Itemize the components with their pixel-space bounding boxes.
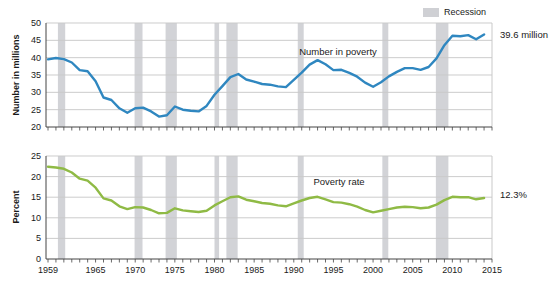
top-y-axis-title: Number in millions [11,34,21,115]
y-tick-label: 50 [9,18,41,28]
y-tick-label: 0 [9,254,41,264]
y-tick-label: 20 [9,122,41,132]
recession-legend-label: Recession [444,7,486,17]
number-end-annotation: 39.6 million [500,29,548,40]
y-tick-label: 20 [9,172,41,182]
x-tick-label: 1959 [30,265,66,275]
recession-legend: Recession [423,7,486,17]
poverty-rate-line [48,167,484,214]
x-tick-label: 2010 [434,265,470,275]
poverty-rate-label: Poverty rate [313,176,364,187]
y-tick-label: 5 [9,233,41,243]
x-tick-label: 1990 [276,265,312,275]
charts-canvas [0,0,555,286]
recession-band [226,156,237,259]
recession-band [382,156,388,259]
recession-swatch-icon [423,8,439,17]
recession-band [58,156,65,259]
bottom-y-axis-title: Percent [11,190,21,223]
number-in-poverty-label: Number in poverty [299,46,377,57]
rate-end-annotation: 12.3% [500,189,527,200]
x-tick-label: 2015 [474,265,510,275]
x-tick-label: 1970 [117,265,153,275]
y-tick-label: 25 [9,151,41,161]
x-tick-label: 1965 [78,265,114,275]
x-tick-label: 2000 [355,265,391,275]
x-tick-label: 1985 [236,265,272,275]
x-tick-label: 1975 [157,265,193,275]
recession-band [215,156,220,259]
x-tick-label: 2005 [395,265,431,275]
x-tick-label: 1995 [315,265,351,275]
recession-band [436,156,449,259]
x-tick-label: 1980 [197,265,233,275]
poverty-trend-figure: 2025303540455005101520251959196519701975… [0,0,555,286]
recession-band [298,156,304,259]
